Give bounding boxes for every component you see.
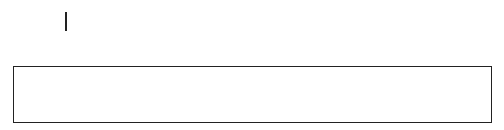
- node-array: [65, 12, 67, 31]
- storage-table: [13, 66, 492, 123]
